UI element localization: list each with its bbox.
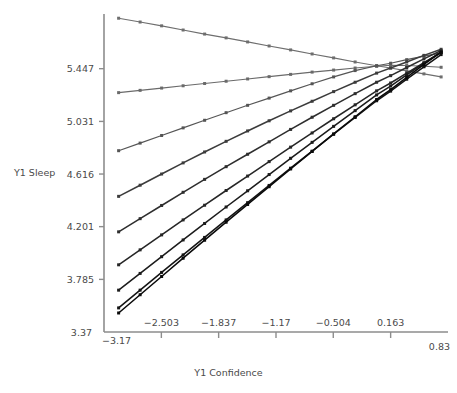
data-point-marker xyxy=(225,165,228,168)
data-point-marker xyxy=(311,71,314,74)
data-point-marker xyxy=(225,36,228,39)
data-point-marker xyxy=(440,51,443,54)
data-point-marker xyxy=(182,238,185,241)
data-point-marker xyxy=(268,140,271,143)
data-point-marker xyxy=(268,75,271,78)
data-point-marker xyxy=(117,263,120,266)
data-point-marker xyxy=(203,82,206,85)
series-layer xyxy=(117,17,443,315)
data-point-marker xyxy=(117,230,120,233)
data-point-marker xyxy=(311,116,314,119)
data-point-marker xyxy=(354,103,357,106)
data-point-marker xyxy=(203,239,206,242)
data-point-marker xyxy=(375,64,378,67)
data-point-marker xyxy=(225,80,228,83)
data-point-marker xyxy=(203,150,206,153)
data-point-marker xyxy=(354,69,357,72)
data-point-marker xyxy=(182,257,185,260)
data-point-marker xyxy=(268,185,271,188)
data-point-marker xyxy=(225,205,228,208)
data-point-marker xyxy=(311,150,314,153)
y-tick-label: 3.37 xyxy=(71,327,92,338)
x-tick-label: −0.504 xyxy=(316,317,351,328)
data-point-marker xyxy=(160,233,163,236)
x-axis-title-text: Y1 Confidence xyxy=(194,367,262,378)
data-point-marker xyxy=(203,119,206,122)
data-point-marker xyxy=(405,60,408,63)
y-axis-title: Y1 Sleep xyxy=(14,161,55,180)
data-point-marker xyxy=(354,81,357,84)
data-point-marker xyxy=(375,98,378,101)
data-point-marker xyxy=(139,293,142,296)
data-point-marker xyxy=(225,189,228,192)
data-point-marker xyxy=(332,117,335,120)
data-point-marker xyxy=(160,271,163,274)
data-point-marker xyxy=(289,128,292,131)
series-line xyxy=(119,18,442,77)
data-point-marker xyxy=(268,173,271,176)
data-point-marker xyxy=(332,125,335,128)
data-point-marker xyxy=(117,311,120,314)
data-point-marker xyxy=(389,62,392,65)
series-9 xyxy=(117,51,443,315)
data-point-marker xyxy=(117,91,120,94)
x-tick-label: −3.17 xyxy=(102,335,131,346)
data-point-marker xyxy=(139,217,142,220)
x-tick-label: −2.503 xyxy=(144,317,179,328)
data-point-marker xyxy=(289,89,292,92)
data-point-marker xyxy=(332,69,335,72)
series-line xyxy=(119,55,442,308)
data-point-marker xyxy=(117,17,120,20)
data-point-marker xyxy=(139,289,142,292)
x-tick-label: −1.17 xyxy=(261,317,290,328)
data-point-marker xyxy=(203,33,206,36)
data-point-marker xyxy=(289,109,292,112)
data-point-marker xyxy=(405,66,408,69)
data-point-marker xyxy=(289,146,292,149)
data-point-marker xyxy=(422,54,425,57)
data-point-marker xyxy=(117,289,120,292)
data-point-marker xyxy=(332,75,335,78)
data-point-marker xyxy=(246,175,249,178)
series-line xyxy=(119,52,442,313)
series-5 xyxy=(117,49,443,233)
x-tick-label: 0.83 xyxy=(429,341,450,352)
data-point-marker xyxy=(289,167,292,170)
data-point-marker xyxy=(246,203,249,206)
data-point-marker xyxy=(375,72,378,75)
data-point-marker xyxy=(117,195,120,198)
data-point-marker xyxy=(246,40,249,43)
y-tick-label: 3.785 xyxy=(67,274,94,285)
chart-container: 3.373.7854.2014.6165.0315.447−3.17−2.503… xyxy=(0,0,457,393)
data-point-marker xyxy=(139,142,142,145)
data-point-marker xyxy=(389,88,392,91)
data-point-marker xyxy=(422,63,425,66)
data-point-marker xyxy=(332,56,335,59)
x-axis-title: Y1 Confidence xyxy=(0,361,457,380)
data-point-marker xyxy=(375,89,378,92)
data-point-marker xyxy=(268,119,271,122)
data-point-marker xyxy=(117,149,120,152)
data-point-marker xyxy=(225,140,228,143)
data-point-marker xyxy=(246,189,249,192)
profiler-line-chart: 3.373.7854.2014.6165.0315.447−3.17−2.503… xyxy=(0,0,457,393)
y-tick-label: 4.201 xyxy=(67,221,94,232)
data-point-marker xyxy=(182,253,185,256)
data-point-marker xyxy=(160,275,163,278)
data-point-marker xyxy=(354,60,357,63)
data-point-marker xyxy=(332,132,335,135)
data-point-marker xyxy=(160,134,163,137)
data-point-marker xyxy=(182,191,185,194)
data-point-marker xyxy=(182,218,185,221)
data-point-marker xyxy=(268,160,271,163)
data-point-marker xyxy=(354,92,357,95)
data-point-marker xyxy=(268,97,271,100)
data-point-marker xyxy=(332,104,335,107)
data-point-marker xyxy=(440,75,443,78)
data-point-marker xyxy=(389,85,392,88)
data-point-marker xyxy=(422,72,425,75)
data-point-marker xyxy=(354,115,357,118)
data-point-marker xyxy=(311,131,314,134)
data-point-marker xyxy=(311,141,314,144)
data-point-marker xyxy=(354,109,357,112)
